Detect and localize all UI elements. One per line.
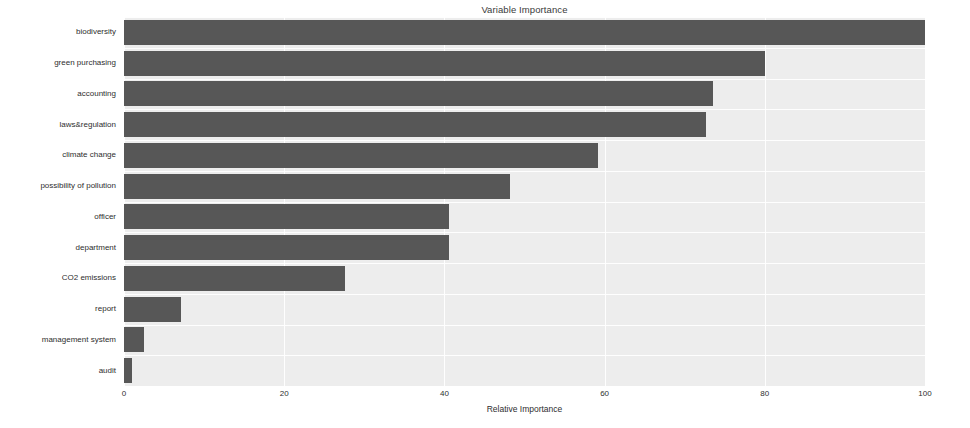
bar bbox=[124, 174, 510, 199]
x-axis-tick-label: 100 bbox=[918, 389, 931, 398]
y-axis-tick-label: department bbox=[0, 243, 116, 253]
bar bbox=[124, 20, 925, 45]
plot-area bbox=[124, 17, 925, 386]
y-axis-tick-label: CO2 emissions bbox=[0, 273, 116, 283]
y-axis-tick-label: audit bbox=[0, 366, 116, 376]
y-axis-tick-label: officer bbox=[0, 212, 116, 222]
horizontal-gridline bbox=[124, 48, 925, 49]
chart-title: Variable Importance bbox=[124, 4, 925, 15]
y-axis-tick-label: report bbox=[0, 304, 116, 314]
horizontal-gridline bbox=[124, 202, 925, 203]
horizontal-gridline bbox=[124, 232, 925, 233]
bar bbox=[124, 51, 765, 76]
bar bbox=[124, 327, 144, 352]
bar bbox=[124, 235, 449, 260]
horizontal-gridline bbox=[124, 140, 925, 141]
x-axis-ticks: 020406080100 bbox=[0, 389, 970, 403]
y-axis-tick-label: green purchasing bbox=[0, 58, 116, 68]
bar bbox=[124, 266, 345, 291]
x-axis-tick-label: 60 bbox=[600, 389, 609, 398]
horizontal-gridline bbox=[124, 355, 925, 356]
variable-importance-chart: Variable Importance biodiversitygreen pu… bbox=[0, 0, 970, 428]
bar bbox=[124, 358, 132, 383]
horizontal-gridline bbox=[124, 79, 925, 80]
x-axis-tick-label: 0 bbox=[122, 389, 126, 398]
bar bbox=[124, 297, 181, 322]
horizontal-gridline bbox=[124, 171, 925, 172]
bar bbox=[124, 143, 598, 168]
bar bbox=[124, 81, 713, 106]
x-axis-tick-label: 40 bbox=[440, 389, 449, 398]
x-axis-title: Relative Importance bbox=[124, 404, 925, 414]
y-axis-tick-label: management system bbox=[0, 335, 116, 345]
bar bbox=[124, 112, 706, 137]
horizontal-gridline bbox=[124, 263, 925, 264]
y-axis-tick-label: climate change bbox=[0, 150, 116, 160]
bar bbox=[124, 204, 449, 229]
horizontal-gridline bbox=[124, 109, 925, 110]
y-axis-tick-label: accounting bbox=[0, 89, 116, 99]
x-axis-tick-label: 20 bbox=[280, 389, 289, 398]
x-axis-tick-label: 80 bbox=[760, 389, 769, 398]
y-axis-tick-label: laws&regulation bbox=[0, 120, 116, 130]
y-axis-tick-label: biodiversity bbox=[0, 27, 116, 37]
y-axis-labels: biodiversitygreen purchasingaccountingla… bbox=[0, 17, 116, 386]
y-axis-tick-label: possibility of pollution bbox=[0, 181, 116, 191]
horizontal-gridline bbox=[124, 294, 925, 295]
horizontal-gridline bbox=[124, 17, 925, 18]
horizontal-gridline bbox=[124, 325, 925, 326]
